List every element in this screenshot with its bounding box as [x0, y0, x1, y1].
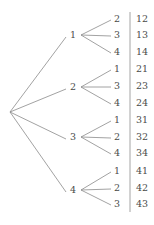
level1-node-3: 3	[66, 132, 80, 142]
level2-edge	[81, 70, 111, 87]
outcome-14: 14	[136, 47, 148, 57]
level2-node-12: 2	[110, 14, 124, 24]
outcome-43: 43	[136, 199, 148, 209]
level2-edge	[81, 189, 111, 190]
level2-node-23: 3	[110, 81, 124, 91]
outcome-21: 21	[136, 64, 148, 74]
level1-edges	[10, 37, 66, 192]
level2-node-21: 1	[110, 64, 124, 74]
outcome-12: 12	[136, 14, 148, 24]
level2-node-42: 2	[110, 183, 124, 193]
level2-node-13: 3	[110, 30, 124, 40]
level2-edge	[81, 137, 111, 154]
level2-edge	[81, 137, 111, 138]
level2-node-14: 4	[110, 47, 124, 57]
level2-node-34: 4	[110, 148, 124, 158]
level1-node-4: 4	[66, 185, 80, 195]
level2-edge	[81, 35, 111, 53]
level2-edge	[81, 20, 111, 35]
outcome-42: 42	[136, 183, 148, 193]
outcome-34: 34	[136, 148, 148, 158]
level1-edge	[10, 112, 66, 139]
level2-edge	[81, 87, 111, 104]
level2-edges	[81, 20, 111, 205]
level2-edge	[81, 121, 111, 137]
level1-edge	[10, 112, 66, 192]
outcome-31: 31	[136, 115, 148, 125]
outcome-24: 24	[136, 98, 148, 108]
level2-node-43: 3	[110, 199, 124, 209]
outcome-13: 13	[136, 30, 148, 40]
level2-edge	[81, 190, 111, 205]
level2-node-31: 1	[110, 115, 124, 125]
outcome-23: 23	[136, 81, 148, 91]
level2-edge	[81, 35, 111, 36]
level2-node-41: 1	[110, 166, 124, 176]
level2-edge	[81, 172, 111, 190]
level1-node-1: 1	[66, 30, 80, 40]
level2-node-24: 4	[110, 98, 124, 108]
outcome-41: 41	[136, 166, 148, 176]
tree-diagram-figure: 1234 234134124123 1213142123243132344142…	[0, 0, 154, 225]
level2-node-32: 2	[110, 132, 124, 142]
level1-node-2: 2	[66, 82, 80, 92]
outcome-32: 32	[136, 132, 148, 142]
